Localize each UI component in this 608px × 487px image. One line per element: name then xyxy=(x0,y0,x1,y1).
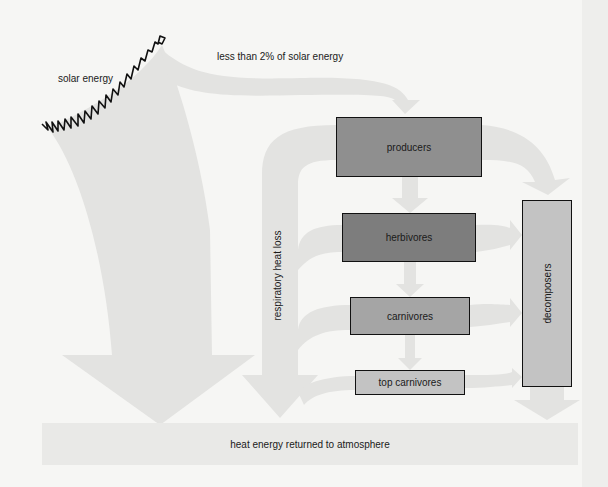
respiratory-heat-loss-label: respiratory heat loss xyxy=(272,230,283,320)
less-than-2pct-label: less than 2% of solar energy xyxy=(217,51,343,62)
carnivores-label: carnivores xyxy=(387,311,433,322)
top-carnivores-label: top carnivores xyxy=(379,377,442,388)
producers-box: producers xyxy=(336,117,482,177)
carnivores-respiration-branch xyxy=(298,305,350,350)
herbivores-respiration-branch xyxy=(298,225,342,270)
decomposers-label: decomposers xyxy=(542,263,553,323)
carnivores-box: carnivores xyxy=(350,297,470,335)
producers-label: producers xyxy=(387,142,431,153)
top-carnivores-box: top carnivores xyxy=(355,370,465,395)
herbivores-label: herbivores xyxy=(386,232,433,243)
herbivores-box: herbivores xyxy=(342,213,476,262)
herbivores-to-decomposers-arrow xyxy=(476,220,522,252)
carnivores-to-decomposers-arrow xyxy=(470,298,522,327)
herbivores-to-carnivores-arrow xyxy=(396,262,424,297)
producers-to-herbivores-arrow xyxy=(392,177,428,213)
flow-arrows xyxy=(48,45,580,425)
decomposers-down-arrow xyxy=(514,387,580,420)
heat-returned-bar: heat energy returned to atmosphere xyxy=(42,423,578,465)
top-carnivores-to-decomposers-arrow xyxy=(465,368,522,388)
decomposers-box: decomposers xyxy=(522,200,572,387)
respiratory-heat-loss-arrow xyxy=(242,125,336,418)
producers-to-decomposers-arrow xyxy=(482,125,570,195)
solar-energy-label: solar energy xyxy=(58,73,113,84)
heat-returned-label: heat energy returned to atmosphere xyxy=(230,439,390,450)
solar-energy-down-arrow xyxy=(48,45,255,425)
carnivores-to-top-carnivores-arrow xyxy=(398,335,422,370)
